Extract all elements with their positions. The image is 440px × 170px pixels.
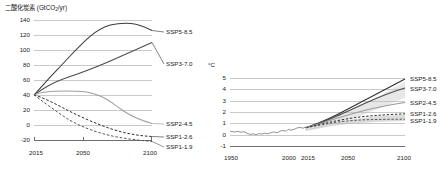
co2-series-svg [34,20,152,140]
co2-xtick-2015: 2015 [29,150,43,156]
temp-plot-area [230,72,405,146]
co2-leader-ssp3-70 [152,43,164,65]
temp-ytick-2: 2 [208,109,226,115]
co2-label-ssp1-19: SSP1-1.9 [166,144,192,150]
co2-ytick-140: 140 [6,17,30,23]
co2-leader-ssp1-26 [152,137,164,138]
temp-ytick-4: 4 [208,86,226,92]
co2-x-axis [34,140,152,141]
co2-ytick-40: 40 [6,92,30,98]
temp-ytick-3: 3 [208,97,226,103]
co2-xtick-2050: 2050 [76,150,90,156]
temp-ytick-1: 1 [208,120,226,126]
temp-label-ssp5-85: SSP5-8.5 [410,76,436,82]
climate-scenarios-figure: 二酸化炭素 (GtCO2/yr) [0,0,440,170]
temp-series-svg [230,72,405,146]
temp-label-ssp2-45: SSP2-4.5 [410,100,436,106]
temp-x-axis [230,146,405,147]
temp-label-ssp1-19: SSP1-1.9 [410,118,436,124]
temp-ytick-neg1: -1 [204,143,226,149]
co2-label-ssp3-70: SSP3-7.0 [166,61,192,67]
co2-xtick-2100: 2100 [143,150,157,156]
temp-ytick-5: 5 [208,75,226,81]
temp-xtick-2100: 2100 [397,155,411,161]
co2-plot-area [34,20,152,140]
co2-axis-title-main: 二酸化炭素 [5,4,35,11]
co2-ytick-20: 20 [6,107,30,113]
co2-axis-title: 二酸化炭素 (GtCO2/yr) [5,4,67,13]
co2-axis-title-unit-post: /yr) [58,4,67,11]
co2-leader-ssp1-19 [152,142,164,148]
panel-temperature-change: °C [220,0,440,170]
co2-line-ssp1-26 [34,95,152,137]
co2-ytick-0: 0 [6,122,30,128]
co2-ytick-neg20: -20 [2,137,30,143]
temp-xtick-1950: 1950 [224,155,238,161]
co2-line-ssp3-70 [34,43,152,96]
co2-label-ssp2-45: SSP2-4.5 [166,121,192,127]
co2-line-ssp2-45 [34,91,152,124]
temp-ytick-0: 0 [208,131,226,137]
co2-label-ssp1-26: SSP1-2.6 [166,134,192,140]
co2-leader-ssp2-45 [152,124,164,125]
temp-xtick-2050: 2050 [341,155,355,161]
temp-unit-label: °C [208,62,215,68]
temp-line-historical [230,127,306,135]
temp-xtick-2015: 2015 [301,155,315,161]
co2-axis-title-unit-pre: (GtCO [35,4,55,11]
temp-label-ssp3-70: SSP3-7.0 [410,86,436,92]
temp-xtick-2000: 2000 [282,155,296,161]
co2-ytick-120: 120 [6,32,30,38]
panel-co2-emissions: 二酸化炭素 (GtCO2/yr) [0,0,220,170]
co2-ytick-60: 60 [6,77,30,83]
co2-ytick-100: 100 [6,47,30,53]
co2-label-ssp5-85: SSP5-8.5 [166,29,192,35]
co2-ytick-80: 80 [6,62,30,68]
co2-leader-ssp5-85 [152,31,164,33]
